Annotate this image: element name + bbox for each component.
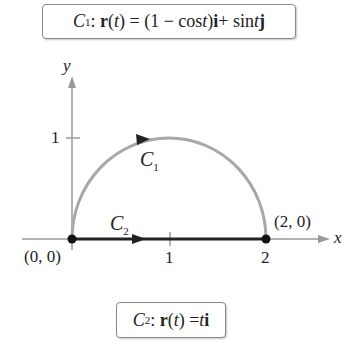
point-end — [262, 235, 271, 244]
c2-curve-label: C2 — [110, 212, 129, 237]
plot — [0, 0, 359, 354]
end-point-label: (2, 0) — [274, 212, 311, 232]
curve-c1 — [72, 138, 266, 239]
origin-label: (0, 0) — [24, 247, 61, 267]
x-tick-label-2: 2 — [261, 248, 270, 268]
point-origin — [68, 235, 77, 244]
x-axis-arrow-icon — [318, 235, 330, 243]
x-tick-label-1: 1 — [165, 248, 174, 268]
c1-direction-arrow-icon — [136, 134, 150, 145]
c2-name: C — [133, 310, 145, 331]
y-tick-label-1: 1 — [51, 128, 60, 148]
c2-sub: 2 — [145, 314, 151, 326]
x-axis-label: x — [334, 228, 342, 248]
c1-curve-label: C1 — [140, 148, 159, 173]
equation-c2-box: C2: r(t) = ti — [116, 302, 226, 338]
y-axis-arrow-icon — [68, 76, 76, 88]
y-axis-label: y — [63, 56, 71, 76]
c2-direction-arrow-icon — [132, 234, 146, 244]
